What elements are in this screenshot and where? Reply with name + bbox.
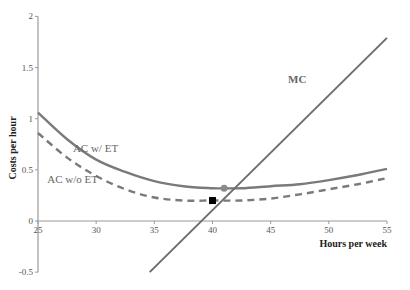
y-tick-label: 2: [29, 11, 34, 21]
x-tick-label: 50: [324, 225, 334, 235]
x-tick-label: 45: [266, 225, 276, 235]
y-tick-label: 1: [29, 114, 34, 124]
x-tick-label: 40: [208, 225, 218, 235]
label-ac-w-et: AC w/ ET: [73, 142, 119, 154]
y-tick-label: -0.5: [19, 267, 34, 277]
labels-layer: AC w/ ETAC w/o ETMC: [47, 73, 306, 185]
x-tick-label: 35: [150, 225, 160, 235]
series-mc: [150, 38, 387, 272]
label-ac-w-o-et: AC w/o ET: [47, 173, 98, 185]
optimum-with-ET-marker: [221, 185, 228, 192]
series-layer: [38, 38, 387, 272]
x-tick-label: 55: [383, 225, 393, 235]
x-tick-label: 30: [92, 225, 102, 235]
x-tick-label: 25: [34, 225, 44, 235]
y-tick-label: 1.5: [22, 63, 34, 73]
label-mc: MC: [288, 73, 306, 85]
optimum-without-ET-marker: [209, 197, 216, 204]
x-axis-title: Hours per week: [319, 238, 387, 249]
cost-chart: -0.500.511.5225303540455055 AC w/ ETAC w…: [0, 0, 410, 290]
y-tick-label: 0.5: [22, 165, 34, 175]
y-axis-title: Costs per hour: [7, 116, 18, 180]
